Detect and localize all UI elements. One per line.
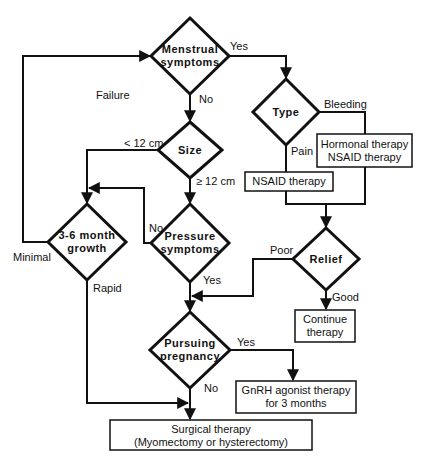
decision-relief: Relief: [293, 228, 359, 290]
label-pregnancy-no: No: [204, 382, 218, 394]
label-type-bleeding: Bleeding: [324, 98, 367, 110]
decision-type: Type: [253, 79, 319, 145]
decision-growth-line1: 3-6 month: [58, 229, 115, 241]
box-surgical-therapy: Surgical therapy (Myomectomy or hysterec…: [110, 420, 312, 450]
label-size-ge-12cm: ≥ 12 cm: [196, 175, 235, 187]
decision-relief-label: Relief: [310, 253, 343, 265]
decision-pursuing-pregnancy: Pursuing pregnancy: [150, 312, 230, 388]
label-pregnancy-yes: Yes: [237, 336, 255, 348]
decision-pregnancy-line2: pregnancy: [160, 350, 221, 362]
label-menstrual-no: No: [199, 93, 213, 105]
edge-pregnancy-yes-to-gnrh: [230, 350, 293, 380]
edge-size-lt-to-growth: [87, 150, 158, 203]
label-pressure-yes: Yes: [203, 274, 221, 286]
label-pressure-no: No: [149, 222, 163, 234]
decision-growth: 3-6 month growth: [48, 204, 126, 280]
box-surgical-line2: (Myomectomy or hysterectomy): [134, 436, 288, 448]
box-gnrh-therapy: GnRH agonist therapy for 3 months: [236, 381, 356, 413]
decision-type-label: Type: [273, 106, 300, 118]
decision-pressure-line2: symptoms: [160, 243, 219, 255]
edge-menstrual-yes-to-type: [229, 56, 286, 78]
label-growth-rapid: Rapid: [93, 282, 122, 294]
box-continue-therapy: Continue therapy: [295, 310, 355, 342]
box-hormonal-line1: Hormonal therapy: [321, 138, 409, 150]
decision-size-label: Size: [178, 144, 202, 156]
decision-menstrual-line1: Menstrual: [162, 43, 218, 55]
box-surgical-line1: Surgical therapy: [171, 423, 251, 435]
edge-type-bleeding-to-hormonal: [319, 112, 365, 134]
box-hormonal-line2: NSAID therapy: [328, 151, 402, 163]
flowchart-diagram: Menstrual symptoms Type Size Pressure sy…: [0, 0, 424, 463]
label-menstrual-yes: Yes: [230, 40, 248, 52]
label-relief-poor: Poor: [270, 244, 294, 256]
decision-pregnancy-line1: Pursuing: [164, 337, 216, 349]
box-gnrh-line2: for 3 months: [265, 397, 327, 409]
box-nsaid-label: NSAID therapy: [252, 175, 326, 187]
decision-size: Size: [158, 122, 222, 178]
box-continue-line1: Continue: [303, 313, 347, 325]
box-continue-line2: therapy: [307, 326, 344, 338]
decision-pressure-symptoms: Pressure symptoms: [151, 204, 229, 282]
label-relief-good: Good: [332, 291, 359, 303]
decision-menstrual-symptoms: Menstrual symptoms: [151, 18, 229, 94]
decision-pressure-line1: Pressure: [164, 230, 215, 242]
box-nsaid-therapy: NSAID therapy: [245, 172, 333, 191]
box-gnrh-line1: GnRH agonist therapy: [242, 384, 351, 396]
label-failure: Failure: [96, 89, 130, 101]
decision-growth-line2: growth: [67, 242, 107, 254]
label-growth-minimal: Minimal: [13, 251, 51, 263]
label-size-lt-12cm: < 12 cm: [124, 137, 163, 149]
decision-menstrual-line2: symptoms: [160, 56, 219, 68]
label-type-pain: Pain: [291, 145, 313, 157]
box-hormonal-therapy: Hormonal therapy NSAID therapy: [317, 134, 412, 167]
